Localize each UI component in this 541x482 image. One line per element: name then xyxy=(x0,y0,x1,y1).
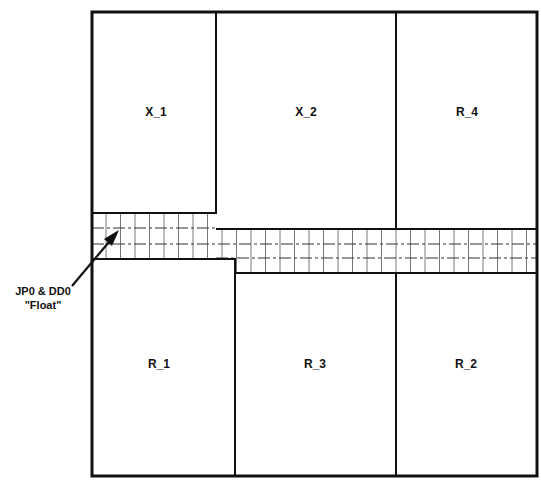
region-label-r3: R_3 xyxy=(304,357,326,371)
floorplan-diagram: X_1 X_2 R_4 R_1 R_3 R_2 JP0 & DD0 "Float… xyxy=(0,0,541,482)
float-grid-band xyxy=(92,213,537,273)
float-annotation: JP0 & DD0 "Float" xyxy=(3,284,83,312)
region-label-x1: X_1 xyxy=(145,105,166,119)
annotation-line1: JP0 & DD0 xyxy=(3,284,83,298)
region-label-r1: R_1 xyxy=(148,357,170,371)
annotation-line2: "Float" xyxy=(3,298,83,312)
region-label-r2: R_2 xyxy=(455,357,477,371)
region-label-r4: R_4 xyxy=(456,105,478,119)
diagram-svg xyxy=(0,0,541,482)
region-label-x2: X_2 xyxy=(295,105,316,119)
